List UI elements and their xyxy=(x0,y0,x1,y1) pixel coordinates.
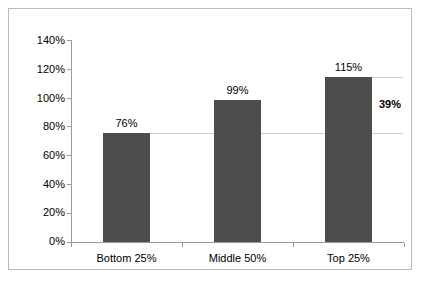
y-axis-label-40: 40% xyxy=(19,179,65,190)
y-axis-tick-40 xyxy=(67,184,71,185)
y-axis-tick-80 xyxy=(67,126,71,127)
y-axis-label-140: 140% xyxy=(19,35,65,46)
bar-middle-50 xyxy=(214,100,261,242)
category-label-bottom-25: Bottom 25% xyxy=(71,252,182,264)
chart-frame: 140% 120% 100% 80% 60% 40% 20% 0% xyxy=(8,8,412,270)
y-axis-tick-140 xyxy=(67,40,71,41)
category-label-middle-50: Middle 50% xyxy=(182,252,293,264)
y-axis-tick-60 xyxy=(67,155,71,156)
y-axis-label-0: 0% xyxy=(19,236,65,247)
x-axis-tick-0 xyxy=(71,243,72,247)
y-axis-label-100: 100% xyxy=(19,93,65,104)
category-label-top-25: Top 25% xyxy=(293,252,404,264)
y-axis-line xyxy=(71,40,72,243)
bar-top-25 xyxy=(325,77,372,242)
bar-value-top-25: 115% xyxy=(322,62,375,73)
x-axis-tick-1 xyxy=(182,243,183,247)
y-axis-label-80: 80% xyxy=(19,121,65,132)
gap-annotation-label: 39% xyxy=(379,99,401,110)
y-axis-label-120: 120% xyxy=(19,64,65,75)
bar-value-bottom-25: 76% xyxy=(103,118,150,129)
bar-value-middle-50: 99% xyxy=(214,85,261,96)
y-axis-tick-100 xyxy=(67,98,71,99)
bar-bottom-25 xyxy=(103,133,150,242)
chart-screenshot: 140% 120% 100% 80% 60% 40% 20% 0% xyxy=(0,0,431,285)
y-axis-label-20: 20% xyxy=(19,207,65,218)
x-axis-tick-2 xyxy=(293,243,294,247)
y-axis-tick-120 xyxy=(67,69,71,70)
x-axis-line xyxy=(71,242,404,243)
y-axis-labels: 140% 120% 100% 80% 60% 40% 20% 0% xyxy=(17,9,65,269)
y-axis-tick-20 xyxy=(67,213,71,214)
x-axis-tick-3 xyxy=(404,243,405,247)
y-axis-label-60: 60% xyxy=(19,150,65,161)
